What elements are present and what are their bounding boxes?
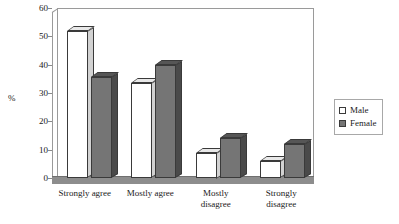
y-axis-tick-label: 0 (2, 174, 48, 183)
bar-side-face (111, 73, 118, 178)
bar-side-face (240, 134, 247, 178)
x-axis-label-line: Strongly agree (58, 188, 111, 198)
legend-label-female: Female (350, 119, 377, 128)
bar-male[interactable] (67, 31, 88, 178)
bar-front-face (67, 31, 88, 178)
bar-front-face (260, 161, 281, 178)
y-axis-ticks: 6050403020100 (0, 8, 48, 184)
bar-female[interactable] (220, 138, 241, 178)
bar-group (121, 8, 185, 178)
bar-male[interactable] (131, 83, 152, 178)
legend-item-male[interactable]: Male (339, 104, 377, 117)
y-axis-tick-label: 50 (2, 32, 48, 41)
chart-container: % 6050403020100 Strongly agreeMostly agr… (0, 0, 399, 224)
chart-title (0, 0, 330, 1)
bar-side-face (304, 140, 311, 178)
x-axis-labels: Strongly agreeMostly agreeMostlydisagree… (52, 188, 314, 222)
legend-item-female[interactable]: Female (339, 117, 377, 130)
x-axis-label-line: Mostly (203, 188, 229, 198)
bar-female[interactable] (155, 65, 176, 178)
bar-front-face (220, 138, 241, 178)
bar-front-face (155, 65, 176, 178)
bar-front-face (284, 144, 305, 178)
bar-group (186, 8, 250, 178)
chart-legend: Male Female (334, 99, 383, 135)
bar-front-face (91, 77, 112, 178)
x-axis-label-line: Strongly (266, 188, 297, 198)
x-axis-category-label: Mostly agree (118, 188, 184, 199)
y-axis-tick-label: 40 (2, 61, 48, 70)
plot-floor (52, 177, 314, 184)
bar-front-face (131, 83, 152, 178)
y-axis-tick-label: 10 (2, 146, 48, 155)
x-axis-category-label: Stronglydisagree (249, 188, 315, 210)
x-axis-category-label: Strongly agree (52, 188, 118, 199)
bar-male[interactable] (260, 161, 281, 178)
legend-swatch-female-icon (339, 120, 346, 127)
bars-container (57, 8, 314, 178)
bar-group (57, 8, 121, 178)
bar-group (250, 8, 314, 178)
y-axis-tick-label: 60 (2, 4, 48, 13)
x-axis-label-line: disagree (183, 199, 249, 210)
y-axis-tick-label: 30 (2, 89, 48, 98)
y-axis-tick-label: 20 (2, 117, 48, 126)
x-axis-category-label: Mostlydisagree (183, 188, 249, 210)
bar-female[interactable] (284, 144, 305, 178)
bar-male[interactable] (196, 153, 217, 179)
x-axis-label-line: disagree (249, 199, 315, 210)
x-axis-label-line: Mostly agree (127, 188, 174, 198)
legend-label-male: Male (350, 106, 369, 115)
bar-female[interactable] (91, 77, 112, 178)
plot-area (52, 8, 314, 184)
legend-swatch-male-icon (339, 107, 346, 114)
bar-front-face (196, 153, 217, 179)
bar-side-face (175, 61, 182, 178)
